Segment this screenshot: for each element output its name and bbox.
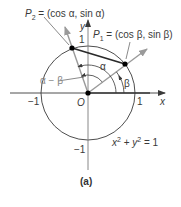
p2-label: P2 = (cos α, sin α) [25, 8, 105, 21]
alpha-label: α [100, 61, 106, 72]
alpha-minus-beta-arc [82, 75, 102, 82]
origin-label: O [77, 97, 85, 108]
tick-y-neg: −1 [74, 144, 86, 155]
p1-label: P1 = (cos β, sin β) [93, 29, 173, 42]
tick-x-pos: 1 [137, 96, 143, 107]
beta-label: β [124, 78, 130, 89]
tick-x-neg: −1 [28, 96, 40, 107]
beta-arc [116, 72, 124, 93]
tick-y-pos: 1 [79, 34, 85, 45]
y-axis-label: y [79, 21, 86, 32]
point-p1 [122, 61, 127, 66]
circle-equation: x2 + y2 = 1 [111, 136, 159, 148]
unit-circle-diagram: P2 = (cos α, sin α) P1 = (cos β, sin β) … [0, 0, 181, 207]
p1-leader [126, 42, 130, 59]
point-origin [85, 90, 90, 95]
alpha-minus-beta-label: α − β [40, 75, 63, 86]
figure-caption: (a) [80, 176, 92, 187]
point-p2 [69, 45, 74, 50]
alpha-arc [78, 65, 116, 93]
x-axis-label: x [159, 96, 166, 107]
p2-leader [44, 17, 69, 45]
